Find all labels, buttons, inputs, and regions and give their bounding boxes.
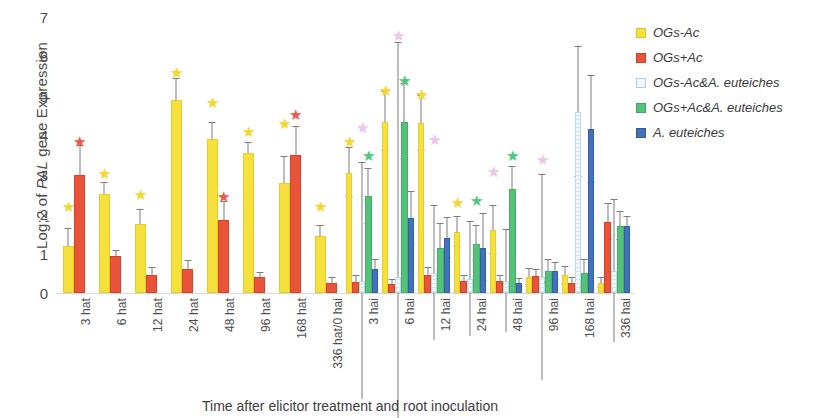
x-axis-tick-label: 24 hat (187, 298, 201, 332)
bar-group: ★ (92, 17, 128, 293)
x-axis-tick-label: 12 hai (439, 298, 453, 331)
error-bar-cap-top (587, 75, 594, 76)
error-bar-cap-top (101, 182, 108, 183)
legend-label: OGs-Ac (653, 25, 699, 40)
error-bar-cap-top (317, 225, 324, 226)
chart-figure: Log;2 of PAL gene Expression 01234567 ★★… (0, 0, 817, 418)
bar-slot (110, 17, 121, 293)
bar[interactable] (552, 271, 558, 293)
legend-item-2[interactable]: OGs-Ac&A. euteiches (636, 70, 814, 95)
error-bar-cap-top (281, 156, 288, 157)
x-axis-tick-label: 6 hai (403, 298, 417, 325)
error-bar-cap-top (407, 191, 414, 192)
error-bar-cap-top (292, 126, 299, 127)
bar-group: ★★ (200, 17, 236, 293)
bar-group: ★ (308, 17, 344, 293)
legend-item-4[interactable]: A. euteiches (636, 120, 814, 145)
bar-slot (326, 17, 337, 293)
x-axis-tick-label: 3 hai (367, 298, 381, 325)
bar-slot (552, 17, 558, 293)
x-axis-tick-label: 96 hat (259, 298, 273, 332)
bar[interactable] (516, 283, 522, 293)
error-bar-cap-top (184, 260, 191, 261)
bar-slot (408, 17, 414, 293)
y-axis-tick-label: 7 (26, 10, 48, 25)
legend-swatch (636, 128, 646, 138)
x-axis-tick-label: 12 hat (151, 298, 165, 332)
legend-swatch (636, 28, 646, 38)
bar[interactable] (110, 256, 121, 293)
bar[interactable] (444, 238, 450, 293)
y-axis-tick-label: 6 (26, 49, 48, 64)
yellow-star: ★ (62, 199, 75, 214)
legend-item-3[interactable]: OGs+Ac&A. euteiches (636, 95, 814, 120)
error-bar-cap-top (256, 272, 263, 273)
legend-label: OGs+Ac (653, 50, 703, 65)
error-bar-cap-top (65, 228, 72, 229)
bar[interactable] (254, 277, 265, 293)
bar[interactable] (315, 236, 326, 293)
bar[interactable] (480, 248, 486, 293)
bar[interactable] (99, 194, 110, 293)
y-axis-tick-label: 2 (26, 207, 48, 222)
yellow-star: ★ (206, 95, 219, 110)
bar[interactable] (588, 129, 594, 293)
bar[interactable] (290, 155, 301, 293)
bar-group: ★ (164, 17, 200, 293)
legend-swatch (636, 78, 646, 88)
red-star: ★ (73, 134, 86, 149)
bar-slot (588, 17, 594, 293)
error-bar-cap-top (148, 267, 155, 268)
bar-group: ★★ (416, 17, 452, 293)
error-bar-cap-top (479, 213, 486, 214)
x-axis-tick-label: 336 hat/0 hai (331, 298, 345, 369)
bar[interactable] (207, 139, 218, 293)
bar[interactable] (135, 224, 146, 293)
bar-group: ★★ (488, 17, 524, 293)
legend-swatch (636, 53, 646, 63)
bar-group (560, 17, 596, 293)
bar[interactable] (372, 269, 378, 293)
bar-slot: ★ (74, 17, 85, 293)
bar-slot: ★ (315, 17, 326, 293)
bar[interactable] (624, 226, 630, 293)
bar[interactable] (326, 283, 337, 293)
bar-slot: ★ (135, 17, 146, 293)
y-axis-tick-label: 1 (26, 246, 48, 261)
bar-slot: ★ (218, 17, 229, 293)
bar[interactable] (171, 100, 182, 293)
bar-group: ★★ (452, 17, 488, 293)
bar-slot (254, 17, 265, 293)
bar[interactable] (63, 246, 74, 293)
error-bar-cap-top (328, 277, 335, 278)
bar-group: ★★ (272, 17, 308, 293)
bar[interactable] (279, 183, 290, 293)
y-axis-tick-label: 3 (26, 167, 48, 182)
bar-slot: ★ (99, 17, 110, 293)
legend-item-1[interactable]: OGs+Ac (636, 45, 814, 70)
error-bar-cap-top (623, 216, 630, 217)
bar[interactable] (218, 220, 229, 293)
legend-item-0[interactable]: OGs-Ac (636, 20, 814, 45)
x-axis-tick-label: 48 hai (511, 298, 525, 331)
bar-slot (480, 17, 486, 293)
error-bar-cap-top (443, 217, 450, 218)
bar-slot: ★ (63, 17, 74, 293)
bar[interactable] (182, 269, 193, 293)
y-axis-tick-label: 4 (26, 128, 48, 143)
bar-group: ★★ (56, 17, 92, 293)
bar-slot: ★ (290, 17, 301, 293)
plot-area: ★★★★★★★★★★★★★★★★★★★★★★★★ (56, 17, 632, 293)
bar[interactable] (146, 275, 157, 293)
bar-slot: ★ (171, 17, 182, 293)
x-axis-tick-label: 48 hat (223, 298, 237, 332)
bar[interactable] (408, 218, 414, 293)
error-bar-cap-top (137, 209, 144, 210)
bar[interactable] (74, 175, 85, 293)
bar[interactable] (243, 153, 254, 293)
legend-label: OGs+Ac&A. euteiches (653, 100, 783, 115)
yellow-star: ★ (134, 187, 147, 202)
bar-slot: ★ (207, 17, 218, 293)
x-axis-tick-label: 6 hat (115, 298, 129, 325)
x-axis-tick-label: 168 hat (295, 298, 309, 339)
